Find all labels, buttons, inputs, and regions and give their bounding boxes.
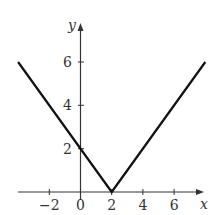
x-axis-arrow-icon [196, 189, 204, 195]
x-tick-label: 2 [107, 197, 116, 213]
y-tick-label: 4 [63, 97, 72, 113]
x-axis-label: x [200, 196, 208, 212]
x-tick-label: −2 [39, 197, 60, 213]
y-axis-arrow-icon [78, 23, 84, 31]
x-tick-label: 6 [170, 197, 179, 213]
x-tick-label: 4 [138, 197, 147, 213]
chart: −2 0 2 4 6 2 4 6 x y [0, 0, 222, 215]
y-axis-label: y [67, 17, 77, 33]
y-tick-label: 6 [63, 54, 72, 70]
function-line [18, 62, 205, 192]
x-tick-label: 0 [76, 197, 85, 213]
y-tick-label: 2 [63, 141, 72, 157]
